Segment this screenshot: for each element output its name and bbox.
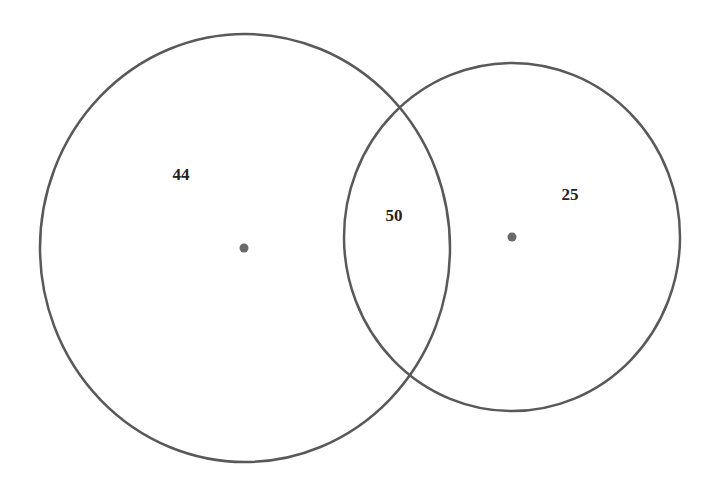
intersection-count: 50 <box>386 206 403 225</box>
b-only-count: 25 <box>562 185 579 204</box>
a-only-count: 44 <box>173 165 191 184</box>
set-b-center-dot <box>508 233 517 242</box>
set-a-center-dot <box>240 244 249 253</box>
venn-diagram: 44 50 25 <box>0 0 715 489</box>
